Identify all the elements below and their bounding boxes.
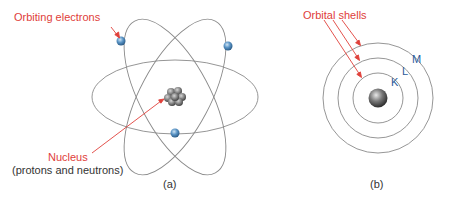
orbiting-electrons-label: Orbiting electrons [14,11,100,23]
electron-icon [171,129,180,138]
shell-l-label: L [402,65,408,77]
caption-a: (a) [163,178,176,190]
electron-pointer-arrow [111,27,120,38]
nucleus-label: Nucleus [48,151,88,163]
nucleus-sphere-icon [369,89,388,108]
orbital-shells-label: Orbital shells [303,9,367,21]
nucleus-pointer-arrow [92,99,164,153]
caption-b: (b) [370,178,383,190]
shell-k-label: K [391,76,398,88]
shell-m-label: M [412,53,421,65]
nucleus-icon [164,87,186,106]
electron-icon [224,42,233,51]
shell-pointer-arrows [324,20,362,78]
nucleus-sublabel: (protons and neutrons) [12,164,123,176]
electron-icon [117,37,126,46]
